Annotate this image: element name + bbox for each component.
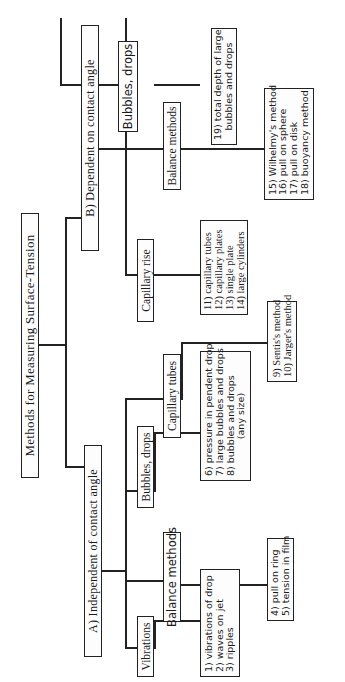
connector-A-balance [125,580,163,582]
category-bubbles-drops-a: Bubbles, drops [137,426,154,508]
method-item: 17) pull on disk [289,122,300,195]
connector-B-balance [125,148,163,150]
connector-trunk [65,218,67,468]
method-item: 10) Jarger's method [282,295,293,377]
connector-A-vibrations [125,647,137,649]
methods-bubbles-a: 6) pressure in pendent drop 7) large bub… [200,351,251,481]
category-capillary-tubes: Capillary tubes [163,354,181,438]
connector-B-capillary [125,274,137,276]
connector-to-B [65,217,81,219]
method-item: 11) capillary tubes [202,232,213,310]
branch-dependent: B) Dependent on contact angle [81,25,99,251]
category-balance-methods-b: Balance methods [163,102,181,190]
connector-A-capillary [125,398,163,400]
category-vibrations: Vibrations [137,616,154,677]
method-item: bubbles and drops [224,43,235,131]
methods-capillary-tubes: 9) Sentis's method 10) Jarger's method [267,301,297,382]
connector-bubbles-run [154,434,156,492]
category-balance-methods-a: Balance methods [163,532,181,622]
method-item: 3) ripples [225,627,236,672]
connector-capillary-rise-list [154,274,200,276]
connector-A-bus [125,399,127,649]
connector-capillary-list [181,342,267,344]
connector-B-balance-list [181,148,267,150]
connector-capillary-run [181,344,183,400]
methods-balance-a: 4) pull on ring 5) tension in film [267,538,294,621]
connector-vibrations-run [154,621,156,649]
method-item: 18) buoyancy method [300,90,311,195]
method-item: 13) single plate [224,245,235,310]
methods-vibrations: 1) vibrations of drop 2) waves on jet 3)… [200,569,240,677]
methods-capillary-rise: 11) capillary tubes 12) capillary plates… [200,220,248,315]
method-item: 4) pull on ring [270,549,281,616]
connector-B-bubbles-run [60,18,62,86]
connector-B-bubbles-list [154,84,200,86]
method-item: 12) capillary plates [213,230,224,310]
connector-A-stem [101,570,125,572]
methods-bubbles-b: 19) total depth of large bubbles and dro… [211,28,237,145]
connector-root-stem [38,344,66,346]
method-item: 7) large bubbles and drops [215,348,226,476]
methods-balance-b: 15) Wilhelmy's method 16) pull on sphere… [264,88,314,200]
category-capillary-rise: Capillary rise [137,239,154,322]
connector-A-bubbles [125,490,137,492]
diagram-title: Methods for Measuring Surface-Tension [21,213,39,478]
category-bubbles-drops-b: Bubbles, drops [118,41,138,132]
method-item: 5) tension in film [281,536,292,616]
method-item: 14) large cylinders [235,231,246,310]
method-item: 9) Sentis's method [271,300,282,377]
surface-tension-diagram: Methods for Measuring Surface-Tension A)… [0,0,345,682]
connector-to-A [65,466,84,468]
connector-B-stem [98,148,125,150]
method-item: (any size) [236,393,247,439]
branch-independent: A) Independent of contact angle [84,445,102,657]
connector-capillary-rise-run [154,275,156,276]
